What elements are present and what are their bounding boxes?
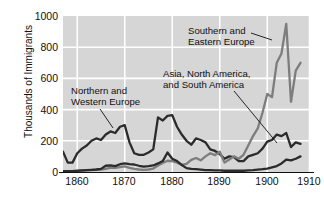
y-axis-tick-labels: 1000 800 600 400 200 0 (20, 0, 58, 204)
x-tick-label: 1870 (104, 175, 144, 187)
annotation-asia-north-south-america: Asia, North America, and South America (163, 69, 250, 91)
annotation-line-2: Western Europe (71, 97, 140, 108)
x-tick-label: 1890 (199, 175, 239, 187)
y-tick-label: 1000 (24, 11, 58, 21)
x-axis-line (59, 172, 314, 173)
immigration-line-chart: Thousands of Immigrants 1000 800 600 400… (0, 0, 324, 204)
y-tick-label: 600 (24, 73, 58, 83)
annotation-northern-western-europe: Northern and Western Europe (71, 86, 140, 108)
annotation-line-2: and South America (163, 80, 250, 91)
annotation-southern-eastern-europe: Southern and Eastern Europe (188, 26, 255, 48)
x-tick-label: 1900 (247, 175, 287, 187)
series-line (63, 153, 301, 172)
y-tick-label: 400 (24, 105, 58, 115)
x-tick-label: 1910 (289, 175, 324, 187)
y-tick-label: 800 (24, 42, 58, 52)
x-tick-label: 1880 (152, 175, 192, 187)
y-tick-label: 200 (24, 136, 58, 146)
x-tick-label: 1860 (57, 175, 97, 187)
annotation-line-2: Eastern Europe (188, 37, 255, 48)
x-axis-tick-labels: 1860 1870 1880 1890 1900 1910 (0, 175, 324, 195)
series-line (63, 115, 301, 163)
